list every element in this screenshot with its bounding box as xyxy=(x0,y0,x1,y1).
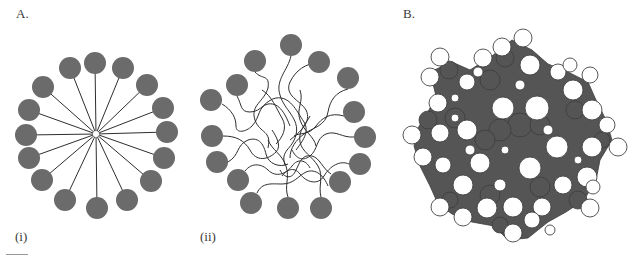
surface-atom xyxy=(431,198,449,216)
surface-atom xyxy=(503,197,523,217)
surface-atom xyxy=(474,49,492,67)
surface-atom xyxy=(504,224,522,242)
head-group xyxy=(112,57,134,79)
surface-atom xyxy=(414,148,432,166)
surface-atom xyxy=(520,55,540,75)
surface-atom xyxy=(545,225,555,235)
surface-atom xyxy=(582,100,602,120)
surface-atom xyxy=(563,80,583,100)
surface-atom xyxy=(451,94,459,102)
head-group xyxy=(15,124,37,146)
disordered-micelle-diagram xyxy=(200,34,376,219)
surface-atom xyxy=(554,176,572,194)
surface-atom xyxy=(519,157,541,179)
head-group xyxy=(337,67,359,89)
surface-atom xyxy=(574,156,582,164)
surface-atom xyxy=(581,199,599,217)
head-group xyxy=(140,170,162,192)
micelle-center xyxy=(93,131,99,137)
head-group xyxy=(201,125,223,147)
surface-atom xyxy=(493,38,511,56)
head-group xyxy=(54,189,76,211)
surface-atom xyxy=(421,68,439,86)
surface-atom xyxy=(492,97,514,119)
head-group xyxy=(31,169,53,191)
head-group xyxy=(329,171,351,193)
head-group xyxy=(116,189,138,211)
surface-atom xyxy=(473,67,483,77)
head-group xyxy=(310,197,332,219)
surface-atom xyxy=(431,124,449,142)
head-group xyxy=(86,197,108,219)
head-group xyxy=(18,99,40,121)
head-group xyxy=(18,147,40,169)
surface-atom xyxy=(465,145,475,155)
ordered-micelle-diagram xyxy=(15,52,178,219)
surface-atom xyxy=(514,29,532,47)
surface-atom xyxy=(586,180,600,194)
surface-atom xyxy=(453,175,473,195)
surface-atom xyxy=(454,208,472,226)
head-group xyxy=(32,76,54,98)
space-filling-micelle-model xyxy=(403,29,627,242)
head-group xyxy=(308,51,330,73)
surface-atom xyxy=(525,96,549,120)
head-group xyxy=(200,89,222,111)
figure-canvas xyxy=(0,0,640,257)
surface-atom xyxy=(457,120,477,140)
surface-atom xyxy=(501,146,509,154)
head-group xyxy=(349,153,371,175)
surface-atom xyxy=(451,114,459,122)
surface-atom xyxy=(477,198,497,218)
surface-atom xyxy=(435,157,451,173)
surface-atom xyxy=(431,48,449,66)
surface-atom xyxy=(470,153,490,173)
head-group xyxy=(244,50,266,72)
surface-atom xyxy=(582,137,602,157)
surface-atom xyxy=(403,126,421,144)
head-group xyxy=(354,126,376,148)
head-group xyxy=(277,197,299,219)
head-group xyxy=(280,34,302,56)
radial-tail xyxy=(96,134,97,208)
head-group xyxy=(206,151,228,173)
surface-atom xyxy=(546,136,568,158)
head-group xyxy=(156,121,178,143)
surface-atom xyxy=(563,58,577,72)
surface-atom xyxy=(609,138,627,156)
surface-atom xyxy=(582,67,598,83)
head-group xyxy=(59,57,81,79)
surface-atom xyxy=(459,74,475,90)
head-group xyxy=(227,169,249,191)
head-group xyxy=(240,192,262,214)
head-group xyxy=(152,97,174,119)
surface-atom xyxy=(494,179,506,191)
head-group xyxy=(343,101,365,123)
head-group xyxy=(153,147,175,169)
head-group xyxy=(84,52,106,74)
surface-atom xyxy=(524,212,540,228)
surface-atom xyxy=(543,125,553,135)
surface-atom xyxy=(515,80,525,90)
surface-atom xyxy=(599,117,615,133)
head-group xyxy=(226,74,248,96)
head-group xyxy=(136,74,158,96)
surface-atom xyxy=(429,94,447,112)
